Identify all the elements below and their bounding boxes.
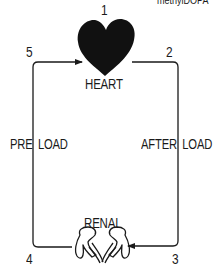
preload-connector — [33, 62, 82, 247]
afterload-connector — [128, 62, 178, 246]
step-number-5: 5 — [26, 45, 33, 59]
step-number-3: 3 — [172, 252, 179, 266]
step-number-4: 4 — [26, 252, 33, 266]
heart-label: HEART — [85, 77, 123, 91]
step-number-2: 2 — [166, 45, 173, 59]
kidneys-icon — [76, 227, 130, 263]
preload-label: PRE LOAD — [10, 137, 68, 151]
step-number-1: 1 — [101, 3, 108, 17]
heart-icon — [78, 19, 135, 76]
renal-label: RENAL — [84, 216, 121, 230]
drug-caption: methylDOPA — [157, 0, 208, 6]
afterload-label: AFTER LOAD — [141, 137, 212, 151]
